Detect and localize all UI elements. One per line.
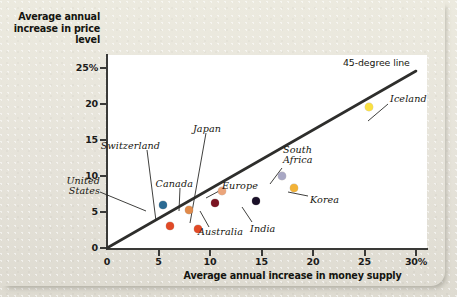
y-axis-title: Average annual increase in price level (12, 11, 100, 46)
x-axis-tick-label: 10 (188, 257, 232, 267)
point-label-korea: Korea (310, 195, 339, 205)
point-label-iceland: Iceland (390, 94, 427, 104)
y-axis-tick (100, 103, 106, 105)
data-point-south-africa[interactable] (278, 172, 286, 180)
reference-line-label: 45-degree line (343, 58, 410, 69)
data-point-united-states[interactable] (159, 201, 167, 209)
y-axis-line (106, 54, 108, 250)
point-label-united-states: UnitedStates (10, 176, 100, 197)
point-label-europe: Europe (222, 181, 258, 191)
data-point-india[interactable] (252, 197, 260, 205)
plot-area (107, 55, 427, 248)
x-axis-title: Average annual increase in money supply (150, 270, 435, 281)
x-axis-line (106, 248, 428, 250)
x-axis-tick-label: 25 (343, 257, 387, 267)
x-axis-tick-label: 15 (240, 257, 284, 267)
point-label-switzerland: Switzerland (70, 141, 160, 151)
y-axis-tick-label: 5 (92, 207, 98, 217)
data-point-australia[interactable] (211, 199, 219, 207)
x-axis-tick-label: 0 (85, 257, 129, 267)
y-axis-tick-label: 0 (92, 243, 98, 253)
y-axis-tick-label: 25% (76, 63, 98, 73)
x-axis-tick-label: 5 (137, 257, 181, 267)
y-axis-tick (100, 211, 106, 213)
point-label-japan: Japan (131, 124, 221, 134)
x-axis-tick-label: 20 (291, 257, 335, 267)
figure-container: Average annual increase in price level A… (0, 0, 457, 297)
x-axis-tick-label: 30% (394, 257, 438, 267)
y-axis-tick-label: 20 (85, 99, 98, 109)
y-axis-tick (100, 67, 106, 69)
point-label-canada: Canada (103, 179, 193, 189)
point-label-india: India (250, 224, 275, 234)
data-point-korea[interactable] (290, 184, 298, 192)
point-label-australia: Australia (198, 227, 243, 237)
data-point-canada[interactable] (185, 206, 193, 214)
data-point-switzerland[interactable] (166, 222, 174, 230)
data-point-iceland[interactable] (365, 103, 373, 111)
point-label-south-africa: SouthAfrica (283, 145, 313, 166)
y-axis-tick (100, 175, 106, 177)
y-axis-tick (100, 247, 106, 249)
